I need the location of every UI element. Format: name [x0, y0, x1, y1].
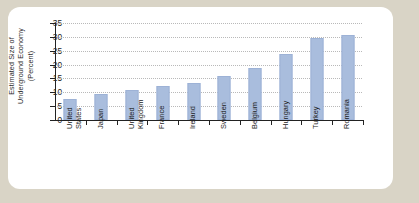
x-category-label: United States — [66, 107, 83, 129]
x-tick-mark — [363, 120, 364, 125]
x-category-label: Hungary — [282, 101, 291, 129]
x-tick-mark — [301, 120, 302, 125]
plot-area: Estimated Size of Underground Economy (P… — [8, 7, 393, 189]
figure-root: Estimated Size of Underground Economy (P… — [0, 0, 419, 203]
x-category-label: Ireland — [189, 106, 198, 129]
bar-slot — [55, 23, 86, 120]
x-tick-mark — [117, 120, 118, 125]
x-category-label: Sweden — [220, 102, 229, 129]
chart-card: Estimated Size of Underground Economy (P… — [8, 7, 393, 189]
x-tick-mark — [240, 120, 241, 125]
x-category-label: Japan — [97, 109, 106, 129]
x-tick-mark — [178, 120, 179, 125]
x-tick-mark — [209, 120, 210, 125]
x-category-label: United Kingdom — [128, 99, 145, 129]
bar-slot — [86, 23, 117, 120]
x-category-label: Turkey — [312, 106, 321, 129]
x-category-label: Romania — [343, 99, 352, 129]
x-category-label: France — [158, 106, 167, 129]
x-tick-mark — [86, 120, 87, 125]
x-tick-mark — [147, 120, 148, 125]
x-tick-mark — [332, 120, 333, 125]
x-tick-mark — [271, 120, 272, 125]
x-category-label: Belgium — [251, 102, 260, 129]
